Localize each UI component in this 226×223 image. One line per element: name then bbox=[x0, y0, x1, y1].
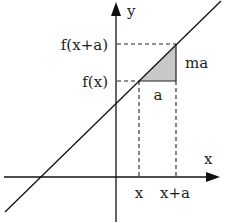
y-tick-fx: f(x) bbox=[82, 73, 108, 91]
x-tick-xa: x+a bbox=[160, 184, 190, 202]
x-axis-arrow-icon bbox=[206, 172, 220, 182]
x-tick-x: x bbox=[135, 184, 144, 202]
rise-label: ma bbox=[185, 54, 208, 72]
y-tick-fxa: f(x+a) bbox=[61, 36, 108, 54]
run-label: a bbox=[154, 86, 163, 104]
x-axis-label: x bbox=[204, 150, 213, 168]
y-axis-arrow-icon bbox=[111, 2, 121, 16]
y-axis-label: y bbox=[126, 2, 136, 20]
function-line bbox=[5, 1, 221, 212]
diagram-canvas: y x f(x+a) f(x) x x+a a ma bbox=[0, 0, 226, 223]
